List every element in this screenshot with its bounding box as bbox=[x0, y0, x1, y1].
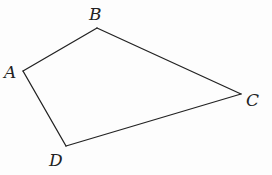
vertex-label-d: D bbox=[48, 150, 63, 170]
diagram-canvas: ABCD bbox=[0, 0, 272, 175]
quadrilateral-diagram: ABCD bbox=[0, 0, 272, 175]
edge-ab bbox=[23, 28, 97, 71]
edge-cd bbox=[66, 94, 241, 146]
labels-group: ABCD bbox=[2, 4, 259, 170]
edge-da bbox=[23, 71, 66, 146]
vertex-label-c: C bbox=[246, 90, 259, 110]
edges-group bbox=[23, 28, 241, 146]
vertex-label-a: A bbox=[2, 62, 16, 82]
vertex-label-b: B bbox=[88, 4, 102, 24]
edge-bc bbox=[97, 28, 241, 94]
